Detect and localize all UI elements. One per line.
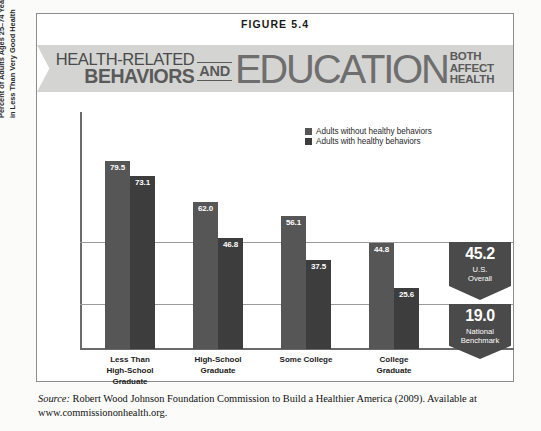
bar: 44.8: [369, 243, 394, 349]
bar: 79.5: [105, 161, 130, 349]
bar-value-label: 62.0: [193, 202, 218, 213]
category-label: Some College: [256, 355, 356, 366]
figure-number: FIGURE 5.4: [36, 18, 514, 30]
bar-value-label: 44.8: [369, 243, 394, 254]
banner-content: HEALTH-RELATED BEHAVIORS AND EDUCATION B…: [37, 45, 513, 92]
callout-caption: U.S. Overall: [449, 265, 511, 286]
banner-left-text: HEALTH-RELATED BEHAVIORS: [56, 52, 195, 86]
banner-conjunction: AND: [197, 62, 232, 81]
figure-title-banner: HEALTH-RELATED BEHAVIORS AND EDUCATION B…: [37, 45, 513, 92]
legend-swatch-icon: [305, 128, 312, 135]
source-text: Robert Wood Johnson Foundation Commissio…: [38, 393, 477, 418]
source-note: Source: Robert Wood Johnson Foundation C…: [38, 392, 508, 421]
bar-value-label: 56.1: [281, 216, 306, 227]
banner-line-2: BEHAVIORS: [56, 67, 195, 85]
callout-value: 19.0: [449, 308, 511, 325]
bar: 62.0: [193, 202, 218, 349]
source-prefix: Source:: [38, 393, 70, 404]
bar-value-label: 37.5: [306, 260, 331, 271]
bar: 56.1: [281, 216, 306, 349]
legend-item: Adults without healthy behaviors: [305, 127, 432, 136]
callout-caption: National Benchmark: [449, 327, 511, 348]
bar: 73.1: [130, 176, 155, 349]
legend-item: Adults with healthy behaviors: [305, 137, 432, 146]
bar-value-label: 73.1: [130, 176, 155, 187]
banner-tag-line-3: HEALTH: [450, 74, 495, 86]
plot-area: 79.573.162.046.856.137.544.825.6: [80, 112, 432, 349]
banner-tagline: BOTH AFFECT HEALTH: [450, 51, 495, 86]
legend-swatch-icon: [305, 138, 312, 145]
chart-legend: Adults without healthy behaviorsAdults w…: [305, 127, 432, 147]
category-label: Less Than High-School Graduate: [80, 355, 180, 387]
callout-value: 45.2: [449, 246, 511, 263]
bar: 46.8: [218, 238, 243, 349]
legend-label: Adults with healthy behaviors: [316, 137, 421, 146]
bar-value-label: 79.5: [105, 161, 130, 172]
banner-subject: EDUCATION: [235, 52, 448, 86]
y-axis-title: Percent of Adults Ages 25–74 Years, in L…: [0, 0, 18, 118]
legend-label: Adults without healthy behaviors: [316, 127, 432, 136]
bar-value-label: 46.8: [218, 238, 243, 249]
bar-value-label: 25.6: [394, 288, 419, 299]
category-label: College Graduate: [344, 355, 444, 377]
category-label: High-School Graduate: [168, 355, 268, 377]
bar: 25.6: [394, 288, 419, 349]
bar: 37.5: [306, 260, 331, 349]
